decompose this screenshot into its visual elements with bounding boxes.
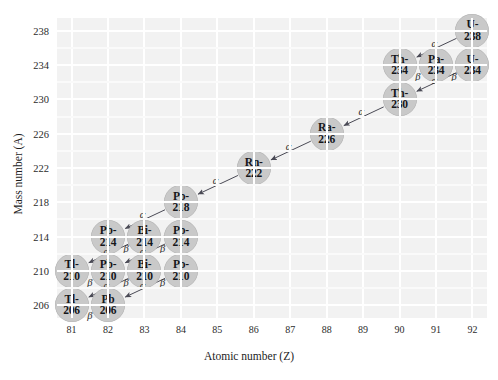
gridline-horizontal (57, 167, 487, 169)
gridline-horizontal (57, 304, 487, 306)
decay-label-beta: β (124, 277, 129, 288)
gridline-horizontal-minor (57, 150, 487, 152)
gridline-horizontal-minor (57, 184, 487, 186)
gridline-horizontal (57, 64, 487, 66)
decay-label-beta: β (452, 71, 457, 82)
decay-label-beta: β (87, 277, 92, 288)
y-tick-label: 206 (13, 300, 49, 311)
y-tick-label: 210 (13, 265, 49, 276)
y-tick-label: 234 (13, 60, 49, 71)
x-tick-label: 86 (249, 324, 259, 335)
y-axis-label: Mass number (A) (12, 104, 24, 244)
x-tick-label: 90 (395, 324, 405, 335)
decay-label-beta: β (124, 242, 129, 253)
x-tick-label: 87 (285, 324, 295, 335)
x-tick-label: 92 (467, 324, 477, 335)
x-tick-label: 88 (322, 324, 332, 335)
gridline-horizontal (57, 201, 487, 203)
gridline-horizontal-minor (57, 218, 487, 220)
decay-label-beta: β (160, 242, 165, 253)
y-tick-label: 238 (13, 25, 49, 36)
x-tick-label: 83 (139, 324, 149, 335)
x-tick-label: 82 (103, 324, 113, 335)
decay-label-beta: β (87, 310, 92, 321)
gridline-horizontal (57, 98, 487, 100)
gridline-horizontal-minor (57, 116, 487, 118)
gridline-horizontal (57, 236, 487, 238)
x-tick-label: 91 (431, 324, 441, 335)
x-tick-label: 84 (176, 324, 186, 335)
gridline-horizontal (57, 30, 487, 32)
gridline-horizontal (57, 270, 487, 272)
gridline-horizontal (57, 133, 487, 135)
x-axis-label: Atomic number (Z) (0, 350, 498, 362)
x-tick-label: 81 (67, 324, 77, 335)
x-tick-label: 89 (358, 324, 368, 335)
gridline-horizontal-minor (57, 253, 487, 255)
gridline-horizontal-minor (57, 47, 487, 49)
gridline-horizontal-minor (57, 287, 487, 289)
decay-label-beta: β (160, 277, 165, 288)
x-tick-label: 85 (212, 324, 222, 335)
decay-chain-figure: U-238Th-234Pa-234U-234Th-230Ra-226Rn-222… (0, 0, 498, 380)
gridline-horizontal-minor (57, 81, 487, 83)
decay-label-beta: β (415, 71, 420, 82)
